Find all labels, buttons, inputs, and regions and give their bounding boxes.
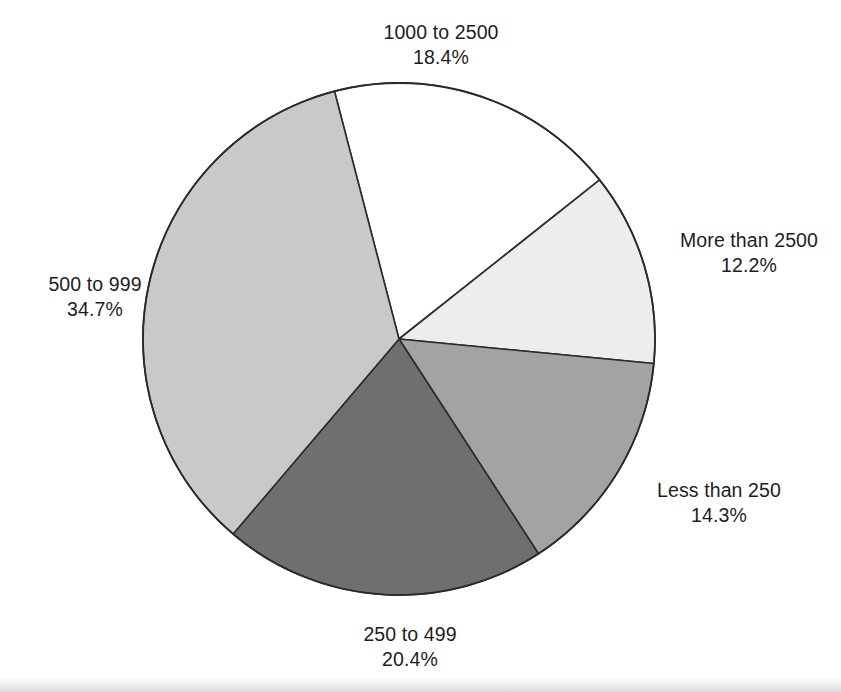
pie-label-name: 250 to 499 <box>320 622 500 647</box>
pie-slice-group <box>143 83 655 595</box>
pie-label-more-than-2500: More than 2500 12.2% <box>660 228 838 278</box>
pie-label-percent: 14.3% <box>636 503 802 528</box>
pie-label-name: More than 2500 <box>660 228 838 253</box>
pie-label-percent: 34.7% <box>10 297 180 322</box>
pie-label-percent: 18.4% <box>341 45 541 70</box>
pie-label-1000-to-2500: 1000 to 2500 18.4% <box>341 20 541 70</box>
pie-label-name: 1000 to 2500 <box>341 20 541 45</box>
pie-chart-figure: 1000 to 2500 18.4% More than 2500 12.2% … <box>0 0 841 692</box>
pie-label-250-to-499: 250 to 499 20.4% <box>320 622 500 672</box>
pie-label-name: Less than 250 <box>636 478 802 503</box>
pie-label-name: 500 to 999 <box>10 272 180 297</box>
page-edge-artifact <box>0 676 841 692</box>
pie-label-less-than-250: Less than 250 14.3% <box>636 478 802 528</box>
pie-label-percent: 20.4% <box>320 647 500 672</box>
pie-label-500-to-999: 500 to 999 34.7% <box>10 272 180 322</box>
pie-chart-svg <box>0 0 841 692</box>
pie-label-percent: 12.2% <box>660 253 838 278</box>
